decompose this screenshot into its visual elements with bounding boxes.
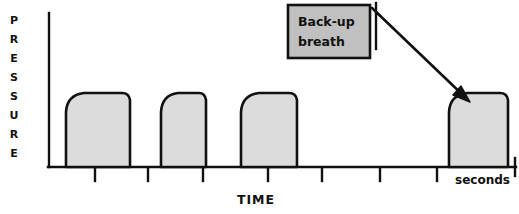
waveform-breath-2 bbox=[161, 93, 206, 167]
x-axis-label: TIME bbox=[237, 192, 275, 207]
x-axis-unit-label: seconds bbox=[455, 173, 510, 187]
callout-line-2: breath bbox=[298, 34, 345, 49]
y-axis-label-letter: E bbox=[10, 147, 18, 160]
y-axis-label-letter: R bbox=[10, 33, 19, 46]
y-axis-label-letter: S bbox=[10, 71, 18, 84]
ventilator-waveform-figure: Back-up breath P R E S S U R E TIME seco… bbox=[0, 0, 519, 214]
back-up-breath-callout-box bbox=[288, 5, 370, 58]
y-axis-label-letter: E bbox=[10, 52, 18, 65]
y-axis-label-letter: P bbox=[10, 14, 18, 27]
waveform-breath-4 bbox=[449, 93, 508, 167]
y-axis-label-letter: S bbox=[10, 90, 18, 103]
y-axis-label-letter: R bbox=[10, 128, 19, 141]
callout-line-1: Back-up bbox=[298, 14, 355, 29]
y-axis-label-letter: U bbox=[10, 109, 19, 122]
waveform-breath-1 bbox=[66, 93, 130, 167]
callout-arrow-shaft bbox=[372, 8, 467, 99]
y-axis-label: P R E S S U R E bbox=[10, 14, 19, 160]
waveform-breath-3 bbox=[241, 93, 297, 167]
waveform-chart: Back-up breath P R E S S U R E TIME seco… bbox=[0, 0, 519, 214]
x-axis-ticks bbox=[95, 168, 437, 181]
